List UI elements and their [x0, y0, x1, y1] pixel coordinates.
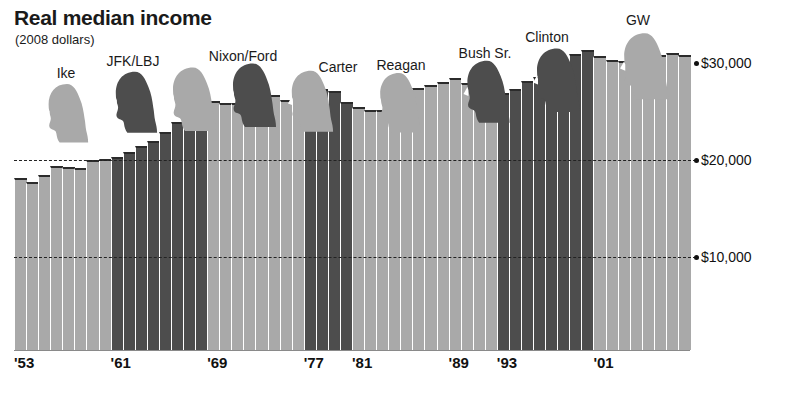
bar-1983 [376, 110, 389, 350]
x-tick-2001: '01 [593, 354, 613, 371]
chart-page: Real median income (2008 dollars) $10,00… [0, 0, 787, 396]
bar-1967 [183, 118, 196, 350]
bar-1982 [364, 110, 377, 350]
x-tick-1981: '81 [352, 354, 372, 371]
bar-1957 [62, 167, 75, 350]
bar-1996 [533, 77, 546, 350]
y-tick-dot-icon [694, 255, 699, 260]
bar-2004 [630, 62, 643, 350]
bar-1955 [38, 175, 51, 350]
bar-1985 [400, 98, 413, 350]
y-tick-dot-icon [694, 61, 699, 66]
bar-1989 [449, 78, 462, 350]
president-label-ike: Ike [57, 65, 76, 81]
bar-2000 [581, 50, 594, 350]
bar-1981 [352, 107, 365, 350]
x-tick-1953: '53 [14, 354, 34, 371]
president-head-icon [168, 66, 218, 132]
y-tick-30000: $30,000 [694, 55, 752, 71]
bar-2002 [606, 60, 619, 350]
bar-1980 [340, 102, 353, 350]
bar-1964 [147, 141, 160, 350]
bar-1992 [485, 92, 498, 350]
x-tick-1977: '77 [304, 354, 324, 371]
bar-1966 [171, 122, 184, 350]
bar-1976 [292, 96, 305, 350]
y-tick-label: $20,000 [701, 152, 752, 168]
bar-1984 [388, 103, 401, 350]
axis-baseline [14, 350, 690, 351]
bar-1988 [437, 82, 450, 350]
bar-2001 [593, 56, 606, 350]
y-tick-dot-icon [694, 158, 699, 163]
bar-1961 [111, 157, 124, 350]
bar-2008 [678, 55, 691, 350]
gridline-10000 [14, 257, 696, 258]
bar-1954 [26, 182, 39, 350]
x-tick-1993: '93 [497, 354, 517, 371]
bar-1968 [195, 108, 208, 350]
bar-1987 [424, 85, 437, 350]
president-head-icon [619, 32, 671, 100]
president-label-jfk-lbj: JFK/LBJ [107, 53, 160, 69]
bar-1993 [497, 93, 510, 350]
bar-1959 [86, 160, 99, 350]
y-tick-10000: $10,000 [694, 249, 752, 265]
bar-1994 [509, 89, 522, 350]
gridline-20000 [14, 160, 696, 161]
chart-title: Real median income [14, 6, 212, 30]
chart-subtitle: (2008 dollars) [15, 32, 95, 47]
president-label-clinton: Clinton [525, 29, 569, 45]
president-head-icon [463, 59, 512, 124]
bar-1974 [268, 95, 281, 350]
y-tick-20000: $20,000 [694, 152, 752, 168]
president-label-gw: GW [626, 12, 650, 28]
president-head-icon [532, 47, 582, 113]
bar-1995 [521, 81, 534, 350]
bar-1960 [99, 159, 112, 350]
bar-1958 [74, 168, 87, 350]
x-tick-1961: '61 [111, 354, 131, 371]
bar-2005 [642, 59, 655, 350]
y-tick-label: $10,000 [701, 249, 752, 265]
president-head-icon [228, 62, 278, 128]
president-head-icon [111, 70, 159, 134]
bar-1975 [280, 100, 293, 350]
bar-1970 [219, 103, 232, 350]
bar-1953 [14, 178, 27, 350]
president-head-icon [287, 69, 335, 133]
bar-1991 [473, 90, 486, 350]
president-head-icon [376, 71, 423, 134]
president-head-icon [44, 82, 90, 144]
bar-1962 [123, 152, 136, 350]
x-tick-1969: '69 [207, 354, 227, 371]
bar-1969 [207, 101, 220, 350]
y-tick-label: $30,000 [701, 55, 752, 71]
bar-1971 [231, 103, 244, 350]
bar-1972 [243, 92, 256, 350]
bar-2003 [618, 61, 631, 350]
bar-1965 [159, 132, 172, 350]
x-tick-1989: '89 [449, 354, 469, 371]
bar-1963 [135, 146, 148, 350]
